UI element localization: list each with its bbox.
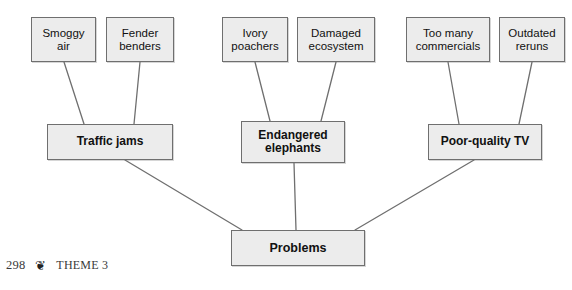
- connector-fender-benders-to-traffic-jams: [134, 62, 140, 124]
- connector-outdated-reruns-to-poor-quality-tv: [519, 62, 532, 124]
- node-endangered-elephants[interactable]: Endangered elephants: [241, 121, 345, 163]
- connector-ivory-poachers-to-endangered-elephants: [255, 62, 270, 121]
- node-traffic-jams[interactable]: Traffic jams: [47, 124, 173, 160]
- connector-traffic-jams-to-problems: [125, 160, 242, 230]
- connector-endangered-elephants-to-problems: [294, 163, 296, 230]
- leaf-ornament-icon: ❦: [34, 259, 47, 272]
- node-label: Endangered elephants: [255, 129, 330, 156]
- node-ivory-poachers[interactable]: Ivory poachers: [222, 17, 288, 62]
- connector-damaged-ecosystem-to-endangered-elephants: [321, 62, 336, 121]
- node-damaged-ecosystem[interactable]: Damaged ecosystem: [297, 17, 375, 62]
- page-number: 298: [6, 258, 25, 273]
- node-smoggy-air[interactable]: Smoggy air: [31, 17, 96, 62]
- page-footer: 298 ❦ THEME 3: [6, 258, 108, 273]
- node-label: Ivory poachers: [228, 27, 281, 53]
- node-label: Fender benders: [116, 27, 164, 53]
- node-problems[interactable]: Problems: [231, 230, 365, 266]
- connector-too-many-commercials-to-poor-quality-tv: [448, 62, 459, 124]
- connector-smoggy-air-to-traffic-jams: [64, 62, 84, 124]
- node-poor-quality-tv[interactable]: Poor-quality TV: [428, 124, 542, 160]
- node-label: Outdated reruns: [505, 27, 558, 53]
- node-label: Damaged ecosystem: [306, 27, 367, 53]
- node-label: Smoggy air: [39, 27, 87, 53]
- node-label: Too many commercials: [413, 27, 484, 53]
- connector-poor-quality-tv-to-problems: [355, 160, 474, 230]
- node-fender-benders[interactable]: Fender benders: [106, 17, 174, 62]
- concept-map-diagram: Smoggy air Fender benders Ivory poachers…: [0, 0, 572, 290]
- node-label: Traffic jams: [74, 135, 147, 148]
- node-label: Poor-quality TV: [438, 135, 533, 148]
- theme-label: THEME 3: [56, 258, 108, 273]
- node-outdated-reruns[interactable]: Outdated reruns: [499, 17, 565, 62]
- node-too-many-commercials[interactable]: Too many commercials: [406, 17, 490, 62]
- node-label: Problems: [267, 241, 330, 255]
